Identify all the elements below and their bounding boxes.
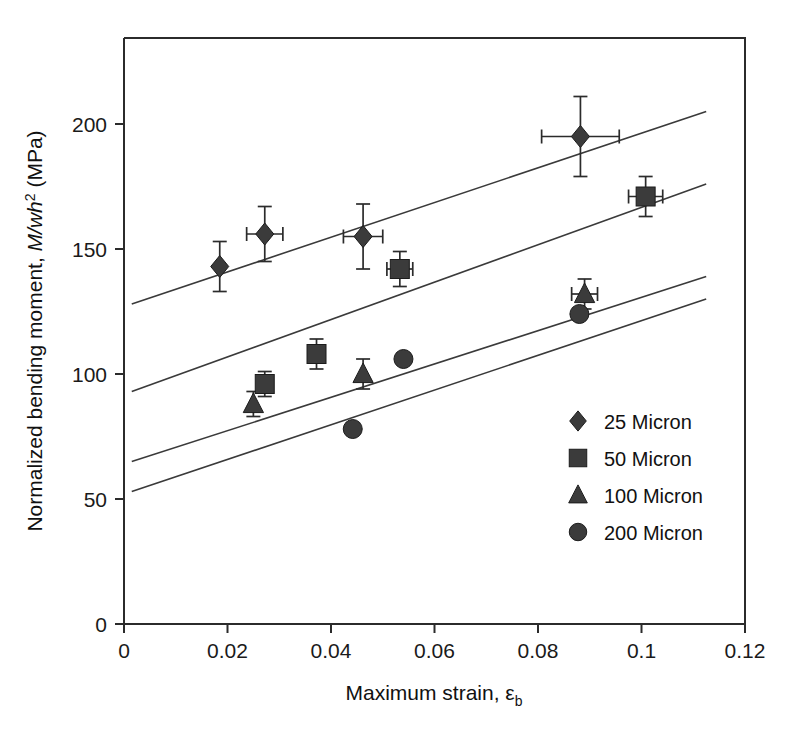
x-tick-label: 0.04 [311,639,352,662]
x-tick-label: 0.06 [414,639,455,662]
error-bars-group [213,97,663,417]
data-point-circle [343,420,362,439]
x-tick-label: 0.02 [207,639,248,662]
x-tick-label: 0.12 [725,639,766,662]
data-point-triangle [569,485,588,503]
legend-label: 100 Micron [604,485,703,507]
y-tick-label: 150 [72,238,107,261]
chart-figure: 00.020.040.060.080.10.12 050100150200 25… [0,0,804,732]
data-point-triangle [574,283,594,303]
legend-label: 25 Micron [604,411,692,433]
y-tick-label: 50 [84,488,107,511]
chart-legend: 25 Micron50 Micron100 Micron200 Micron [569,411,703,544]
x-tick-label: 0.1 [627,639,656,662]
y-tick-label: 0 [95,613,107,636]
data-point-circle [570,305,589,324]
x-tick-label: 0 [118,639,130,662]
data-point-square [307,345,326,364]
y-tick-label: 200 [72,113,107,136]
data-point-diamond [570,411,587,431]
svg-text:Maximum strain, εb: Maximum strain, εb [345,681,522,709]
x-axis-title: Maximum strain, εb [345,681,522,709]
y-axis-ticks: 050100150200 [72,113,124,636]
data-point-square [255,375,274,394]
trend-line-100-micron [132,277,706,462]
y-axis-title: Normalized bending moment, M/wh2 (MPa) [22,130,46,531]
trend-lines-group [132,112,706,492]
data-point-circle [394,350,413,369]
x-axis-ticks: 00.020.040.060.080.10.12 [118,624,765,662]
data-point-circle [569,523,586,540]
legend-label: 50 Micron [604,448,692,470]
data-point-diamond [211,256,229,278]
y-tick-label: 100 [72,363,107,386]
x-tick-label: 0.08 [518,639,559,662]
scatter-plot: 00.020.040.060.080.10.12 050100150200 25… [0,0,804,732]
data-point-square [390,260,409,279]
data-point-square [569,449,586,466]
data-point-triangle [353,363,373,383]
legend-label: 200 Micron [604,522,703,544]
trend-line-50-micron [132,184,706,392]
data-point-diamond [571,126,589,148]
data-point-square [636,187,655,206]
data-point-diamond [256,223,274,245]
svg-text:Normalized bending moment, M/w: Normalized bending moment, M/wh2 (MPa) [22,130,46,531]
